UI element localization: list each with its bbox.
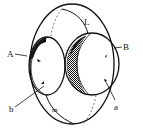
arrow-mark-left-top (37, 59, 41, 62)
diagram-figure: A B L a b m (0, 0, 143, 128)
label-a: a (114, 102, 118, 112)
label-B: B (123, 42, 129, 52)
left-hole (29, 37, 65, 95)
arrow-mark-right-top (105, 55, 107, 58)
curve-m (46, 95, 74, 124)
label-A: A (7, 49, 14, 59)
label-L: L (84, 17, 90, 27)
hidden-curve-top (51, 9, 62, 36)
label-b: b (9, 104, 14, 114)
arrow-mark-left-bottom (41, 81, 44, 84)
leader-b (15, 86, 44, 107)
leader-A (15, 54, 27, 56)
label-m: m (52, 106, 58, 114)
